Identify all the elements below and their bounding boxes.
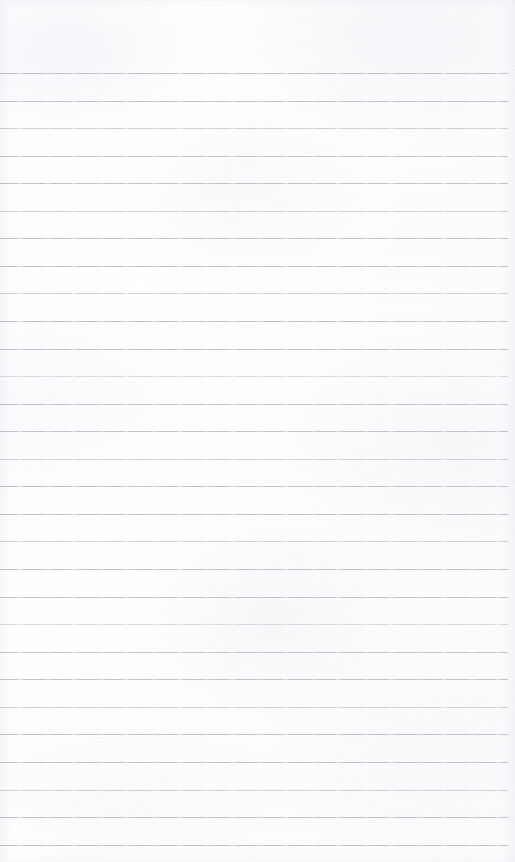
rule-line (0, 624, 508, 625)
rule-line (0, 73, 508, 74)
rule-line (0, 790, 508, 791)
rule-line (0, 156, 508, 157)
rule-line (0, 459, 508, 460)
rule-line (0, 597, 508, 598)
rule-line (0, 652, 508, 653)
rule-line (0, 238, 508, 239)
notebook-page (0, 0, 515, 862)
rule-line (0, 486, 508, 487)
rule-line (0, 321, 508, 322)
rule-line (0, 707, 508, 708)
rule-line (0, 128, 508, 129)
rule-line (0, 734, 508, 735)
rule-line (0, 569, 508, 570)
rule-line (0, 845, 508, 846)
rule-line (0, 404, 508, 405)
rule-line (0, 183, 508, 184)
rule-line (0, 431, 508, 432)
rule-line (0, 679, 508, 680)
rule-line (0, 293, 508, 294)
rule-line (0, 376, 508, 377)
rule-line (0, 817, 508, 818)
rule-line (0, 266, 508, 267)
rule-line (0, 211, 508, 212)
rule-line (0, 762, 508, 763)
ruled-lines-group (0, 0, 515, 862)
rule-line (0, 101, 508, 102)
rule-line (0, 349, 508, 350)
rule-line (0, 541, 508, 542)
rule-line (0, 514, 508, 515)
